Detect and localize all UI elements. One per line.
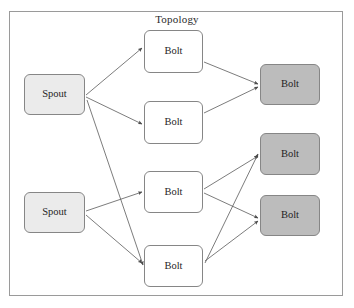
node-bolt1[interactable]: Bolt	[144, 30, 203, 73]
node-sink2[interactable]: Bolt	[260, 133, 320, 175]
edge-spout2-to-bolt3	[86, 192, 142, 211]
edge-bolt1-to-sink1	[204, 62, 258, 84]
node-label: Spout	[42, 207, 67, 218]
edge-bolt4-to-sink2	[205, 154, 258, 263]
node-label: Bolt	[164, 261, 182, 272]
node-spout2[interactable]: Spout	[24, 192, 85, 233]
node-bolt3[interactable]: Bolt	[144, 171, 203, 213]
edge-bolt3-to-sink3	[204, 193, 258, 218]
node-spout1[interactable]: Spout	[24, 74, 85, 115]
edge-bolt2-to-sink1	[204, 87, 258, 113]
node-label: Spout	[42, 89, 67, 100]
node-bolt4[interactable]: Bolt	[144, 245, 203, 287]
node-label: Bolt	[281, 79, 299, 90]
node-label: Bolt	[164, 117, 182, 128]
node-label: Bolt	[164, 187, 182, 198]
edge-group	[86, 48, 258, 265]
edge-spout2-to-bolt4	[86, 215, 142, 263]
node-label: Bolt	[164, 46, 182, 57]
edge-bolt3-to-sink2	[204, 156, 258, 189]
node-sink1[interactable]: Bolt	[260, 64, 320, 105]
node-label: Bolt	[281, 210, 299, 221]
edge-spout1-to-bolt2	[86, 97, 142, 124]
node-sink3[interactable]: Bolt	[260, 195, 320, 236]
diagram-title: Topology	[0, 13, 354, 25]
topology-diagram-page: Topology SpoutSpoutBoltBoltBoltBoltBoltB…	[0, 0, 354, 308]
edge-spout1-to-bolt1	[86, 48, 142, 95]
node-label: Bolt	[281, 149, 299, 160]
edge-bolt4-to-sink3	[205, 221, 258, 261]
node-bolt2[interactable]: Bolt	[144, 101, 203, 144]
